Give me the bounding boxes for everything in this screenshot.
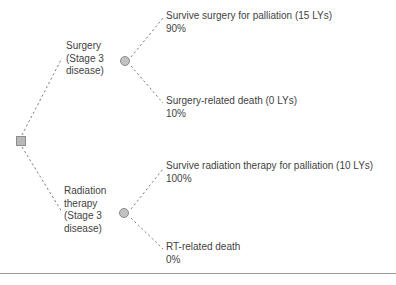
decision-node-root[interactable] [16, 136, 26, 146]
branch-label-surgery-line-1: Surgery [66, 40, 101, 51]
decision-tree-diagram: Surgery(Stage 3disease) Radiationtherapy… [0, 0, 396, 285]
branch-label-radiation: Radiationtherapy(Stage 3disease) [64, 185, 106, 235]
outcome-title-surgery-death: Surgery-related death (0 LYs) [166, 95, 297, 108]
branch-label-radiation-line-3: (Stage 3 [64, 210, 102, 221]
branch-label-surgery-line-2: (Stage 3 [66, 53, 104, 64]
outcome-probability-surgery-death: 10% [166, 108, 186, 121]
outcome-probability-rt-survive: 100% [166, 173, 192, 186]
branch-label-surgery-line-3: disease) [66, 65, 104, 76]
edge-radiation-to-survive [131, 169, 163, 209]
outcome-title-rt-survive: Survive radiation therapy for palliation… [166, 160, 373, 173]
edge-root-to-radiation [22, 147, 62, 212]
outcome-title-rt-death: RT-related death [166, 241, 240, 254]
outcome-title-surgery-survive: Survive surgery for palliation (15 LYs) [166, 10, 332, 23]
edge-surgery-to-death [131, 66, 163, 103]
branch-label-surgery: Surgery(Stage 3disease) [66, 40, 104, 78]
branch-label-radiation-line-4: disease) [64, 223, 102, 234]
branch-label-radiation-line-1: Radiation [64, 185, 106, 196]
edge-radiation-to-death [131, 218, 163, 249]
edge-surgery-to-survive [131, 18, 163, 57]
edge-root-to-surgery [22, 58, 62, 135]
outcome-probability-surgery-survive: 90% [166, 23, 186, 36]
footer-divider [0, 273, 396, 274]
outcome-probability-rt-death: 0% [166, 254, 180, 267]
chance-node-radiation[interactable] [119, 208, 129, 218]
chance-node-surgery[interactable] [120, 56, 130, 66]
branch-label-radiation-line-2: therapy [64, 198, 97, 209]
